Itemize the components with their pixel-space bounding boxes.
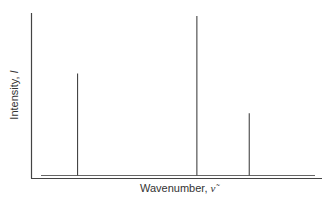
y-axis-label: Intensity, I	[8, 70, 20, 119]
spectrum-plot	[0, 0, 336, 205]
x-axis-label: Wavenumber, ν̃	[140, 182, 215, 194]
